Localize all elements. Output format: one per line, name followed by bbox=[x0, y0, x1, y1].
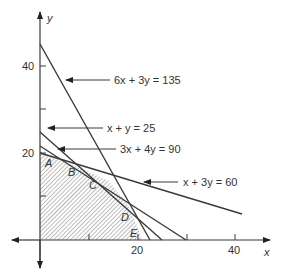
x-tick-40: 40 bbox=[228, 244, 240, 256]
x-axis-label: x bbox=[263, 246, 270, 258]
label-3x-4y-90: 3x + 4y = 90 bbox=[120, 143, 181, 155]
y-axis-label: y bbox=[46, 12, 54, 24]
y-tick-40: 40 bbox=[22, 60, 34, 72]
vertex-b: B bbox=[68, 166, 75, 178]
label-x-y-25: x + y = 25 bbox=[107, 122, 155, 134]
label-x-3y-60: x + 3y = 60 bbox=[183, 176, 237, 188]
vertex-c: C bbox=[89, 179, 97, 191]
feasible-region bbox=[40, 153, 142, 240]
feasible-region-diagram: 20 40 20 40 y x 6x + 3y = 135 x + y = 25… bbox=[0, 0, 286, 278]
vertex-a: A bbox=[44, 157, 52, 169]
vertex-e: E bbox=[130, 227, 138, 239]
y-tick-20: 20 bbox=[22, 147, 34, 159]
vertex-d: D bbox=[121, 211, 129, 223]
x-tick-20: 20 bbox=[131, 244, 143, 256]
label-6x-3y-135: 6x + 3y = 135 bbox=[114, 74, 181, 86]
